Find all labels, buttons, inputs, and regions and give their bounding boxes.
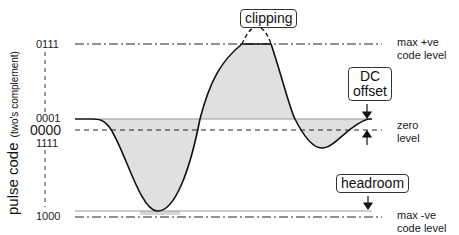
code-label-zero: 0000	[30, 123, 61, 137]
headroom-strip	[140, 211, 180, 215]
max-positive-level-label-line2: code level	[397, 49, 447, 62]
zero-level-label-line1: zero	[397, 119, 420, 132]
max-negative-level-label: max -ve code level	[397, 209, 447, 235]
max-positive-level-label-line1: max +ve	[397, 36, 447, 49]
pcm-waveform-diagram	[0, 0, 459, 235]
max-negative-level-label-line2: code level	[397, 222, 447, 235]
clip-area-fill	[200, 44, 295, 119]
zero-level-label-line2: level	[397, 132, 420, 145]
zero-level-label: zero level	[397, 119, 420, 145]
dc-offset-arrows	[363, 104, 371, 145]
clipping-callout: clipping	[240, 9, 297, 28]
dc-offset-callout-line1: DC	[353, 69, 387, 84]
y-axis-label: pulse code(two's complement)	[4, 51, 22, 215]
dc-offset-callout: DC offset	[348, 67, 392, 101]
y-axis-label-sub: (two's complement)	[9, 51, 20, 137]
code-label-max-positive: 0111	[36, 39, 59, 50]
dc-offset-callout-line2: offset	[353, 84, 387, 99]
code-label-minus-one: 1111	[36, 138, 58, 149]
headroom-callout: headroom	[336, 174, 409, 193]
y-axis-label-main: pulse code	[4, 142, 21, 215]
clipped-peak-dashed	[242, 27, 271, 44]
waveform-area-fill	[92, 119, 200, 211]
max-negative-level-label-line1: max -ve	[397, 209, 447, 222]
max-positive-level-label: max +ve code level	[397, 36, 447, 62]
headroom-arrow	[364, 196, 372, 209]
code-label-max-negative: 1000	[36, 211, 60, 222]
